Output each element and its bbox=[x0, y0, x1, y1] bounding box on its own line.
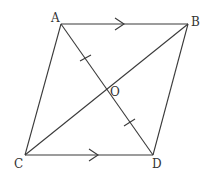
side-bd bbox=[153, 24, 188, 155]
label-a: A bbox=[50, 11, 60, 25]
side-ac bbox=[25, 24, 61, 155]
label-c: C bbox=[14, 157, 23, 171]
parallelogram-diagram: A B C D O bbox=[0, 0, 212, 175]
label-b: B bbox=[191, 15, 200, 29]
tick-mark-icon-od bbox=[124, 119, 135, 126]
diagonal-cb bbox=[25, 24, 188, 155]
label-d: D bbox=[152, 157, 162, 171]
tick-mark-icon-ao bbox=[80, 55, 91, 61]
label-o: O bbox=[110, 85, 120, 99]
